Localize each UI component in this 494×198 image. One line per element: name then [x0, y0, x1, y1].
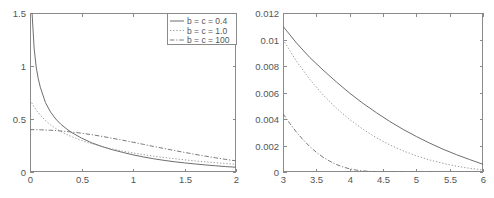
y-tick-label: 1.5 [13, 8, 26, 19]
chart-panel-left: 00.511.5200.511.5b = c = 0.4b = c = 1.0b… [0, 0, 247, 198]
x-tick-label: 4.5 [377, 174, 390, 185]
x-tick-label: 0.5 [76, 174, 89, 185]
x-tick-label: 4 [348, 174, 353, 185]
legend-label-1: b = c = 1.0 [187, 26, 227, 36]
left-plot-svg: 00.511.5200.511.5b = c = 0.4b = c = 1.0b… [0, 0, 247, 198]
x-tick-label: 5 [414, 174, 419, 185]
curves-group [283, 26, 483, 172]
chart-panel-right: 33.544.555.5600.0020.0040.0060.0080.010.… [247, 0, 494, 198]
y-tick-label: 0.002 [255, 141, 279, 152]
series-line-2 [283, 114, 483, 172]
plot-frame [284, 14, 483, 172]
y-tick-label: 0 [274, 167, 279, 178]
y-tick-label: 0.004 [255, 114, 279, 125]
x-tick-label: 1 [131, 174, 136, 185]
y-tick-label: 0.01 [261, 35, 280, 46]
x-tick-label: 1.5 [179, 174, 192, 185]
y-tick-label: 0.012 [255, 8, 279, 19]
y-tick-label: 1 [21, 61, 26, 72]
y-tick-label: 0.006 [255, 88, 279, 99]
y-tick-label: 0.5 [13, 114, 26, 125]
legend: b = c = 0.4b = c = 1.0b = c = 100 [168, 14, 237, 46]
right-plot-svg: 33.544.555.5600.0020.0040.0060.0080.010.… [247, 0, 494, 198]
y-tick-label: 0.008 [255, 61, 279, 72]
x-tick-label: 3 [281, 174, 286, 185]
legend-label-0: b = c = 0.4 [187, 16, 227, 26]
series-line-1 [283, 40, 483, 171]
series-line-2 [30, 130, 236, 161]
series-line-0 [283, 26, 483, 164]
x-tick-label: 3.5 [310, 174, 323, 185]
figure-container: 00.511.5200.511.5b = c = 0.4b = c = 1.0b… [0, 0, 494, 198]
y-tick-label: 0 [21, 167, 26, 178]
x-tick-label: 2 [234, 174, 239, 185]
x-tick-label: 0 [28, 174, 33, 185]
x-tick-label: 6 [481, 174, 486, 185]
x-tick-label: 5.5 [444, 174, 457, 185]
legend-label-2: b = c = 100 [187, 35, 230, 45]
